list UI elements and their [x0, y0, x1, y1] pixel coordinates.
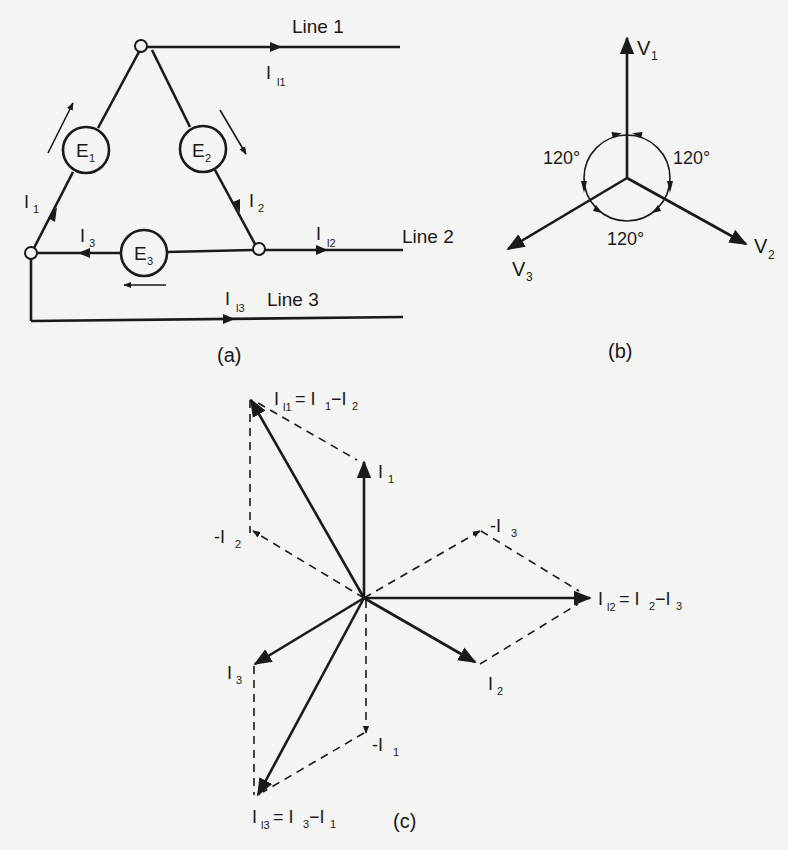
delta-side-2-upper	[152, 50, 190, 127]
i-l2-symbol: I	[316, 224, 321, 244]
neg-i3-label: -I 3	[490, 516, 517, 539]
i3-subscript: 3	[236, 674, 242, 686]
il2-eq-mid: −I	[655, 589, 671, 609]
neg-i3-phasor	[364, 531, 480, 598]
il3-equation-label: I l3 = I 3 −I 1	[252, 807, 336, 831]
dash-guide	[263, 733, 364, 792]
i-l2-label: I l2	[316, 224, 336, 249]
neg-i1-label: -I 1	[372, 735, 399, 758]
i1-phasor-label: I 1	[378, 462, 394, 485]
il3-subscript: l3	[261, 819, 270, 831]
v2-symbol: V	[754, 235, 768, 257]
delta-side-1-lower	[34, 172, 73, 248]
v2-phasor	[627, 178, 746, 244]
e2-subscript: 2	[205, 152, 211, 164]
il1-equation-label: I l1 = I 1 −I 2	[274, 389, 358, 413]
il1-subscript: l1	[283, 401, 292, 413]
panel-a-caption: (a)	[217, 344, 241, 366]
v3-subscript: 3	[526, 270, 533, 284]
il3-phasor	[258, 598, 364, 795]
delta-side-1-upper	[98, 50, 140, 128]
neg-i1-subscript: 1	[393, 746, 399, 758]
neg-i2-phasor	[253, 531, 364, 598]
v1-subscript: 1	[651, 49, 658, 63]
i3-phasor-label: I 3	[227, 663, 242, 686]
line-3-label: Line 3	[267, 289, 319, 310]
line-2-label: Line 2	[402, 226, 454, 247]
neg-i3-subscript: 3	[511, 527, 517, 539]
neg-i1-symbol: -I	[372, 735, 383, 755]
dash-guide	[480, 604, 578, 664]
i3-subscript: 3	[89, 237, 95, 249]
e1-subscript: 1	[89, 152, 95, 164]
il1-eq-sub2: 2	[352, 400, 358, 412]
i1-subscript: 1	[33, 203, 39, 215]
i1-symbol: I	[378, 462, 383, 482]
e1-symbol: E	[76, 140, 89, 161]
v3-label: V 3	[512, 258, 533, 284]
neg-i2-label: -I 2	[214, 527, 241, 550]
node-right	[253, 243, 265, 255]
delta-side-3-right	[167, 250, 253, 252]
i-l2-subscript: l2	[327, 237, 336, 249]
line-1-current-arrow-icon	[270, 42, 282, 52]
il2-subscript: l2	[607, 601, 616, 613]
neg-i3-symbol: -I	[490, 516, 501, 536]
il2-equation-label: I l2 = I 2 −I 3	[598, 589, 682, 613]
neg-i2-symbol: -I	[214, 527, 225, 547]
il3-eq-mid: −I	[309, 807, 325, 827]
i-l1-label: I l1	[266, 63, 286, 88]
line-3-current-arrow-icon	[223, 314, 235, 324]
e3-symbol: E	[134, 243, 147, 264]
line-3-wire	[31, 317, 403, 321]
angle-label-right: 120°	[673, 148, 710, 168]
i2-symbol: I	[249, 191, 254, 211]
angle-label-bottom: 120°	[607, 229, 644, 249]
i-l1-subscript: l1	[277, 76, 286, 88]
i1-symbol: I	[24, 192, 29, 212]
dash-guide	[258, 403, 357, 460]
il3-symbol: I	[252, 807, 257, 827]
il3-eq-sub2: 1	[330, 818, 336, 830]
dash-guide	[481, 531, 579, 591]
il2-symbol: I	[598, 589, 603, 609]
i2-phasor	[364, 598, 475, 662]
node-left	[25, 247, 37, 259]
i-l3-subscript: l3	[236, 302, 245, 314]
angle-label-left: 120°	[543, 148, 580, 168]
il1-eq-mid: −I	[331, 389, 347, 409]
i1-subscript: 1	[388, 473, 394, 485]
i3-arrow-icon	[78, 248, 90, 258]
il1-symbol: I	[274, 389, 279, 409]
panel-c-caption: (c)	[393, 810, 416, 832]
il1-phasor	[251, 400, 364, 598]
e3-subscript: 3	[147, 255, 153, 267]
v1-symbol: V	[637, 37, 651, 59]
il3-eq: = I	[273, 807, 294, 827]
il2-eq: = I	[619, 589, 640, 609]
node-top	[135, 40, 147, 52]
i-l3-label: I l3	[225, 289, 245, 314]
e2-symbol: E	[192, 140, 205, 161]
panel-b-caption: (b)	[608, 340, 632, 362]
i2-subscript: 2	[497, 685, 503, 697]
neg-i2-subscript: 2	[235, 538, 241, 550]
i1-label: I 1	[24, 192, 39, 215]
v3-symbol: V	[512, 258, 526, 280]
i3-symbol: I	[227, 663, 232, 683]
i2-subscript: 2	[258, 202, 264, 214]
line-1-label: Line 1	[292, 16, 344, 37]
il2-eq-sub2: 3	[676, 600, 682, 612]
i2-phasor-label: I 2	[488, 674, 503, 697]
three-phase-delta-figure: Line 1 Line 2 Line 3 I l1 I l2 I l3 E 1 …	[0, 0, 788, 850]
panel-c-current-phasors: I 1 I 2 I 3 -I 1 -I 2 -I 3 I l1 = I 1 −I	[214, 389, 682, 832]
il1-eq: = I	[295, 389, 316, 409]
panel-b-voltage-phasors: V 1 V 2 V 3 120° 120° 120° (b)	[508, 37, 775, 362]
i-l1-symbol: I	[266, 63, 271, 83]
i3-symbol: I	[80, 226, 85, 246]
i3-label: I 3	[80, 226, 95, 249]
panel-a-delta-circuit: Line 1 Line 2 Line 3 I l1 I l2 I l3 E 1 …	[24, 16, 454, 366]
v2-label: V 2	[754, 235, 775, 262]
i2-symbol: I	[488, 674, 493, 694]
v2-subscript: 2	[768, 248, 775, 262]
